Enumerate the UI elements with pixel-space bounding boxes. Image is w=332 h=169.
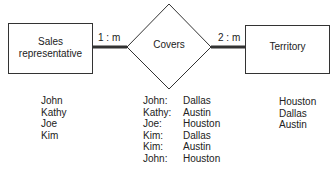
territory-name: Dallas [183, 130, 211, 142]
list-item: Joe:Houston [143, 118, 220, 130]
territory-name: Dallas [183, 95, 211, 107]
sales-label-line1: Sales [8, 36, 93, 48]
list-item: Houston [279, 96, 316, 108]
list-item: Austin [279, 119, 316, 131]
list-item: John:Houston [143, 153, 220, 165]
list-item: Kim [41, 130, 67, 142]
list-item: Joe [41, 118, 67, 130]
sales-label-line2: representative [8, 48, 93, 60]
territory-name: Houston [183, 153, 220, 165]
covers-label: Covers [140, 39, 198, 51]
list-item: Kathy:Austin [143, 107, 220, 119]
covers-list: John:Dallas Kathy:Austin Joe:Houston Kim… [143, 95, 220, 164]
sales-representative-label: Sales representative [8, 36, 93, 60]
territory-label: Territory [245, 41, 330, 53]
rep-name: Kathy: [143, 107, 183, 119]
list-item: John:Dallas [143, 95, 220, 107]
list-item: Kim:Dallas [143, 130, 220, 142]
rep-name: John: [143, 153, 183, 165]
list-item: Dallas [279, 108, 316, 120]
territory-name: Austin [183, 107, 211, 119]
right-cardinality: 2 : m [218, 32, 240, 44]
rep-name: John: [143, 95, 183, 107]
territories-list: Houston Dallas Austin [279, 96, 316, 131]
rep-name: Kim: [143, 141, 183, 153]
list-item: John [41, 95, 67, 107]
rep-name: Joe: [143, 118, 183, 130]
rep-name: Kim: [143, 130, 183, 142]
left-cardinality: 1 : m [98, 32, 120, 44]
list-item: Kathy [41, 107, 67, 119]
territory-name: Austin [183, 141, 211, 153]
territory-name: Houston [183, 118, 220, 130]
list-item: Kim:Austin [143, 141, 220, 153]
sales-reps-list: John Kathy Joe Kim [41, 95, 67, 141]
